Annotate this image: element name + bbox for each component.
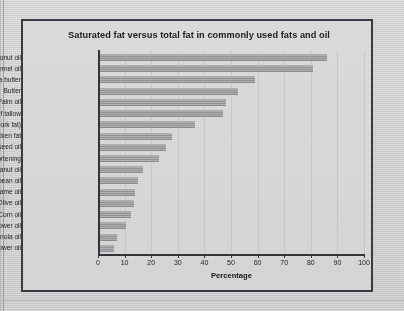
bar-row[interactable] (98, 220, 364, 231)
bar[interactable] (98, 110, 223, 117)
chart-frame: Saturated fat versus total fat in common… (21, 19, 373, 292)
bar-row[interactable] (98, 52, 364, 63)
x-tick-mark (258, 254, 259, 258)
bar[interactable] (98, 245, 114, 252)
category-label: Palm kernel oil (0, 65, 21, 72)
bar[interactable] (98, 76, 255, 83)
category-label: Vegetable shortening (0, 155, 21, 162)
category-label: Olive oil (0, 199, 21, 206)
category-label: Lard (pork fat) (0, 121, 21, 128)
category-axis-labels: Coconut oilPalm kernel oilCocoa butterBu… (0, 52, 21, 254)
bar[interactable] (98, 121, 195, 128)
bar-row[interactable] (98, 164, 364, 175)
x-tick-label: 10 (112, 259, 138, 266)
x-tick-label: 20 (138, 259, 164, 266)
x-tick-label: 90 (324, 259, 350, 266)
category-label: Sesame oil (0, 188, 21, 195)
y-axis-line (98, 50, 100, 255)
bar[interactable] (98, 211, 131, 218)
category-label: Cottonseed oil (0, 143, 21, 150)
bar[interactable] (98, 155, 159, 162)
bar-row[interactable] (98, 97, 364, 108)
x-tick-mark (231, 254, 232, 258)
bar[interactable] (98, 65, 313, 72)
bar-row[interactable] (98, 243, 364, 254)
bar[interactable] (98, 222, 126, 229)
x-tick-mark (151, 254, 152, 258)
x-tick-label: 80 (298, 259, 324, 266)
bar-row[interactable] (98, 131, 364, 142)
bar[interactable] (98, 177, 138, 184)
category-label: Cocoa butter (0, 76, 21, 83)
category-label: Peanut oil (0, 166, 21, 173)
category-label: Beef tallow (0, 110, 21, 117)
bar[interactable] (98, 99, 226, 106)
page-bottom-rule (0, 300, 404, 301)
category-label: Canola oil (0, 233, 21, 240)
bar[interactable] (98, 189, 135, 196)
bar[interactable] (98, 234, 117, 241)
bar-row[interactable] (98, 153, 364, 164)
category-label: Safflower oil (0, 244, 21, 251)
bar-row[interactable] (98, 108, 364, 119)
x-tick-mark (204, 254, 205, 258)
x-tick-label: 50 (218, 259, 244, 266)
x-tick-label: 40 (191, 259, 217, 266)
category-label: Sunflower oil (0, 222, 21, 229)
category-label: Soybean oil (0, 177, 21, 184)
bar-row[interactable] (98, 86, 364, 97)
x-tick-mark (364, 254, 365, 258)
bar-row[interactable] (98, 209, 364, 220)
bar[interactable] (98, 88, 238, 95)
plot-area (98, 52, 364, 254)
gridline (364, 52, 365, 254)
category-label: Corn oil (0, 211, 21, 218)
x-tick-mark (337, 254, 338, 258)
category-label: Coconut oil (0, 54, 21, 61)
bar-row[interactable] (98, 119, 364, 130)
x-tick-mark (311, 254, 312, 258)
category-label: Chicken fat (0, 132, 21, 139)
x-tick-mark (178, 254, 179, 258)
x-tick-mark (284, 254, 285, 258)
bar[interactable] (98, 144, 166, 151)
x-tick-label: 100 (351, 259, 377, 266)
bar[interactable] (98, 133, 172, 140)
bar-row[interactable] (98, 175, 364, 186)
bar-row[interactable] (98, 74, 364, 85)
bar-row[interactable] (98, 142, 364, 153)
bar-row[interactable] (98, 187, 364, 198)
x-axis-title: Percentage (98, 271, 365, 280)
x-tick-label: 0 (85, 259, 111, 266)
bar-row[interactable] (98, 63, 364, 74)
chart-title: Saturated fat versus total fat in common… (23, 30, 375, 40)
bar-row[interactable] (98, 232, 364, 243)
x-tick-label: 30 (165, 259, 191, 266)
x-tick-label: 60 (245, 259, 271, 266)
x-tick-mark (125, 254, 126, 258)
x-tick-mark (98, 254, 99, 258)
category-label: Butter (0, 87, 21, 94)
x-tick-label: 70 (271, 259, 297, 266)
bar[interactable] (98, 166, 143, 173)
bar-row[interactable] (98, 198, 364, 209)
category-label: Palm oil (0, 98, 21, 105)
bar[interactable] (98, 200, 134, 207)
bar[interactable] (98, 54, 327, 61)
